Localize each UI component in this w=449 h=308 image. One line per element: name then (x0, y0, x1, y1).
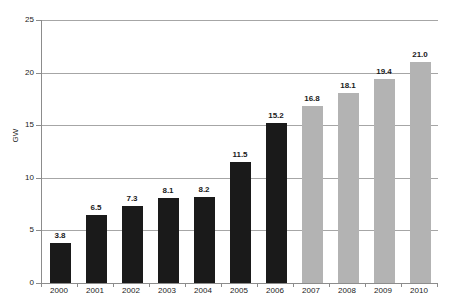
y-axis-tick-label: 5 (4, 226, 34, 234)
bar-value-label: 7.3 (114, 194, 150, 203)
bar-group: 16.8 (294, 20, 330, 283)
bar-value-label: 3.8 (42, 231, 78, 240)
y-axis-tick-label: 25 (4, 16, 34, 24)
y-axis-tick-mark (36, 230, 41, 231)
y-axis-tick-mark (36, 178, 41, 179)
x-axis-tick-label: 2010 (401, 286, 437, 296)
y-axis-tick-mark (36, 73, 41, 74)
bar-2010[interactable] (410, 62, 431, 283)
y-axis-tick-mark (36, 20, 41, 21)
bar-value-label: 11.5 (222, 150, 258, 159)
bar-group: 18.1 (330, 20, 366, 283)
bar-group: 6.5 (78, 20, 114, 283)
x-axis-tick-mark (257, 283, 258, 287)
x-axis-tick-label: 2003 (149, 286, 185, 296)
bar-value-label: 8.1 (150, 186, 186, 195)
x-axis-tick-label: 2009 (365, 286, 401, 296)
bar-group: 3.8 (42, 20, 78, 283)
x-axis-tick-mark (77, 283, 78, 287)
bar-2007[interactable] (302, 106, 323, 283)
x-axis-tick-mark (113, 283, 114, 287)
bar-group: 8.1 (150, 20, 186, 283)
bar-group: 11.5 (222, 20, 258, 283)
x-axis-tick-mark (221, 283, 222, 287)
y-axis-tick-labels: 0510152025 (0, 20, 34, 283)
bar-value-label: 8.2 (186, 185, 222, 194)
bar-chart: GW 0510152025 3.86.57.38.18.211.515.216.… (0, 0, 449, 308)
bar-value-label: 18.1 (330, 81, 366, 90)
bar-group: 15.2 (258, 20, 294, 283)
bar-group: 7.3 (114, 20, 150, 283)
x-axis-tick-mark (329, 283, 330, 287)
x-axis-tick-mark (185, 283, 186, 287)
x-axis-tick-label: 2006 (257, 286, 293, 296)
y-axis-tick-mark (36, 125, 41, 126)
bar-2004[interactable] (194, 197, 215, 283)
x-axis-tick-label: 2004 (185, 286, 221, 296)
x-axis-tick-mark (437, 283, 438, 287)
x-axis-tick-label: 2008 (329, 286, 365, 296)
x-axis-tick-mark (293, 283, 294, 287)
x-axis-tick-labels: 2000200120022003200420052006200720082009… (41, 286, 437, 300)
bar-value-label: 19.4 (366, 67, 402, 76)
x-axis-tick-label: 2000 (41, 286, 77, 296)
bar-2005[interactable] (230, 162, 251, 283)
x-axis-tick-label: 2001 (77, 286, 113, 296)
plot-area: 3.86.57.38.18.211.515.216.818.119.421.0 (41, 20, 438, 284)
x-axis-tick-label: 2002 (113, 286, 149, 296)
bar-2001[interactable] (86, 215, 107, 283)
bar-group: 21.0 (402, 20, 438, 283)
bar-value-label: 15.2 (258, 111, 294, 120)
bar-2009[interactable] (374, 79, 395, 283)
x-axis-tick-mark (41, 283, 42, 287)
bar-group: 8.2 (186, 20, 222, 283)
bar-value-label: 6.5 (78, 203, 114, 212)
bar-2008[interactable] (338, 93, 359, 283)
x-axis-tick-label: 2005 (221, 286, 257, 296)
bar-value-label: 21.0 (402, 50, 438, 59)
y-axis-tick-label: 20 (4, 69, 34, 77)
bar-2002[interactable] (122, 206, 143, 283)
x-axis-tick-mark (365, 283, 366, 287)
x-axis-tick-label: 2007 (293, 286, 329, 296)
bar-2000[interactable] (50, 243, 71, 283)
y-axis-tick-label: 15 (4, 121, 34, 129)
bar-2006[interactable] (266, 123, 287, 283)
y-axis-tick-label: 10 (4, 174, 34, 182)
bar-2003[interactable] (158, 198, 179, 283)
bar-group: 19.4 (366, 20, 402, 283)
gridline-0 (42, 283, 438, 284)
x-axis-tick-mark (149, 283, 150, 287)
y-axis-tick-label: 0 (4, 279, 34, 287)
x-axis-tick-mark (401, 283, 402, 287)
bar-value-label: 16.8 (294, 94, 330, 103)
